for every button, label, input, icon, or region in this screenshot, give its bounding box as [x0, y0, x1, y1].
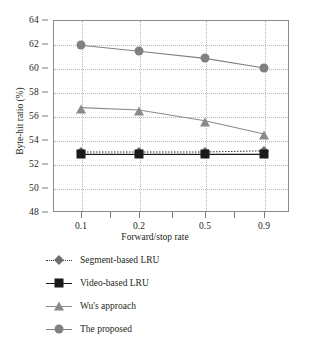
data-point-marker	[200, 117, 210, 126]
legend-item-triangle[interactable]: Wu's approach	[46, 294, 276, 317]
y-axis: 485052545658606264	[0, 0, 53, 232]
data-point-marker	[260, 64, 269, 73]
y-tick-label: 58	[29, 87, 39, 97]
legend-swatch-square-icon	[46, 276, 72, 290]
x-tick-mark	[81, 212, 82, 218]
gridline-vertical	[265, 21, 266, 211]
legend-marker-triangle-icon	[54, 301, 64, 310]
x-tick-mark	[139, 212, 140, 218]
plot-area	[53, 20, 289, 212]
data-point-marker	[259, 131, 269, 140]
data-point-marker	[135, 47, 144, 56]
gridline-horizontal	[54, 165, 288, 166]
data-point-marker	[201, 54, 210, 63]
legend-swatch-triangle-icon	[46, 299, 72, 313]
y-tick-label: 64	[29, 15, 39, 25]
y-axis-title: Byte-hit ratio (%)	[15, 51, 25, 191]
legend-item-circle[interactable]: The proposed	[46, 317, 276, 340]
gridline-vertical	[206, 21, 207, 211]
gridline-horizontal	[54, 93, 288, 94]
x-tick-label: 0.2	[133, 221, 145, 231]
y-tick-mark	[42, 68, 48, 69]
legend-item-square[interactable]: Video-based LRU	[46, 271, 276, 294]
y-tick-label: 62	[29, 39, 39, 49]
y-tick-label: 54	[29, 135, 39, 145]
data-point-marker	[201, 150, 210, 159]
y-tick-label: 60	[29, 63, 39, 73]
data-point-marker	[77, 41, 86, 50]
x-tick-label: 0.5	[199, 221, 211, 231]
legend-label: Wu's approach	[80, 301, 136, 311]
x-tick-mark	[234, 212, 235, 218]
y-tick-mark	[42, 44, 48, 45]
x-tick-mark	[110, 212, 111, 218]
y-tick-mark	[42, 164, 48, 165]
y-tick-mark	[42, 116, 48, 117]
y-tick-mark	[42, 140, 48, 141]
gridline-horizontal	[54, 189, 288, 190]
legend-marker-square-icon	[55, 278, 64, 287]
x-axis-title: Forward/stop rate	[0, 232, 310, 242]
legend-item-diamond[interactable]: Segment-based LRU	[46, 248, 276, 271]
gridline-horizontal	[54, 45, 288, 46]
gridline-horizontal	[54, 117, 288, 118]
legend-swatch-circle-icon	[46, 322, 72, 336]
legend-swatch-diamond-icon	[46, 253, 72, 267]
legend-label: Video-based LRU	[80, 278, 149, 288]
data-point-marker	[260, 150, 269, 159]
x-tick-mark	[264, 212, 265, 218]
y-tick-mark	[42, 188, 48, 189]
legend-label: The proposed	[80, 324, 132, 334]
legend-marker-diamond-icon	[54, 255, 64, 265]
x-tick-label: 0.9	[258, 221, 270, 231]
legend-label: Segment-based LRU	[80, 255, 159, 265]
legend-marker-circle-icon	[55, 324, 64, 333]
gridline-horizontal	[54, 141, 288, 142]
chart-figure: 485052545658606264 Byte-hit ratio (%) 0.…	[0, 0, 310, 344]
y-tick-label: 56	[29, 111, 39, 121]
gridline-horizontal	[54, 69, 288, 70]
data-point-marker	[76, 104, 86, 113]
x-tick-mark	[172, 212, 173, 218]
y-tick-mark	[42, 92, 48, 93]
y-tick-mark	[42, 20, 48, 21]
y-tick-label: 52	[29, 159, 39, 169]
data-point-marker	[77, 150, 86, 159]
data-point-marker	[135, 150, 144, 159]
y-tick-label: 50	[29, 183, 39, 193]
x-tick-mark	[205, 212, 206, 218]
data-point-marker	[134, 107, 144, 116]
x-tick-label: 0.1	[75, 221, 87, 231]
legend: Segment-based LRUVideo-based LRUWu's app…	[46, 248, 276, 340]
